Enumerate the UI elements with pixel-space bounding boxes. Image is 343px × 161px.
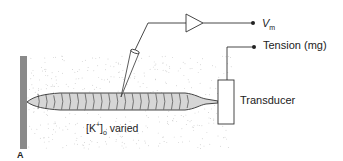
bath-dot	[53, 57, 54, 58]
bath-dot	[122, 56, 123, 57]
bath-dot	[116, 139, 117, 140]
bath-dot	[130, 77, 131, 78]
bath-dot	[197, 62, 198, 63]
bath-dot	[218, 77, 219, 78]
bath-dot	[82, 89, 83, 90]
bath-dot	[67, 129, 68, 130]
bath-dot	[40, 125, 41, 126]
bath-dot	[209, 117, 210, 118]
bath-dot	[62, 56, 63, 57]
bath-dot	[56, 83, 57, 84]
bath-dot	[77, 71, 78, 72]
tension-output-wire	[227, 47, 254, 80]
bath-dot	[55, 123, 56, 124]
bath-dot	[200, 144, 201, 145]
bath-dot	[55, 131, 56, 132]
bath-dot	[163, 70, 164, 71]
bath-dot	[122, 145, 123, 146]
bath-dot	[122, 77, 123, 78]
bath-dot	[159, 121, 160, 122]
bath-dot	[228, 56, 229, 57]
bath-dot	[85, 60, 86, 61]
bath-dot	[65, 126, 66, 127]
tension-label: Tension (mg)	[263, 39, 327, 51]
bath-dot	[133, 140, 134, 141]
bath-dot	[108, 59, 109, 60]
bath-dot	[118, 64, 119, 65]
bath-dot	[78, 78, 79, 79]
panel-letter: A	[17, 150, 24, 160]
bath-dot	[98, 77, 99, 78]
bath-dot	[28, 97, 29, 98]
bath-dot	[145, 110, 146, 111]
bath-dot	[118, 91, 119, 92]
bath-dot	[82, 61, 83, 62]
bath-dot	[172, 57, 173, 58]
bath-dot	[213, 120, 214, 121]
bath-dot	[192, 127, 193, 128]
bath-dot	[53, 92, 54, 93]
bath-dot	[66, 84, 67, 85]
bath-dot	[77, 144, 78, 145]
bath-dot	[55, 121, 56, 122]
bath-dot	[190, 68, 191, 69]
bath-dot	[147, 127, 148, 128]
bath-dot	[99, 57, 100, 58]
bath-dot	[105, 141, 106, 142]
bath-dot	[109, 82, 110, 83]
bath-dot	[51, 86, 52, 87]
bath-dot	[120, 136, 121, 137]
bath-dot	[44, 142, 45, 143]
bath-dot	[98, 114, 99, 115]
bath-dot	[45, 62, 46, 63]
bath-dot	[30, 78, 31, 79]
bath-dot	[212, 65, 213, 66]
bath-dot	[82, 78, 83, 79]
fixed-wall	[20, 56, 27, 149]
bath-dot	[174, 137, 175, 138]
bath-dot	[144, 73, 145, 74]
bath-dot	[87, 113, 88, 114]
bath-dot	[165, 56, 166, 57]
bath-dot	[89, 91, 90, 92]
bath-dot	[124, 143, 125, 144]
bath-dot	[220, 146, 221, 147]
bath-dot	[176, 121, 177, 122]
bath-dot	[84, 142, 85, 143]
bath-dot	[46, 88, 47, 89]
bath-dot	[84, 88, 85, 89]
bath-dot	[99, 146, 100, 147]
bath-dot	[55, 57, 56, 58]
bath-dot	[158, 116, 159, 117]
transducer-box	[218, 80, 234, 124]
bath-dot	[52, 139, 53, 140]
bath-dot	[166, 64, 167, 65]
bath-dot	[44, 58, 45, 59]
bath-dot	[223, 137, 224, 138]
potassium-varied-label: [K+]o varied	[86, 121, 138, 136]
bath-dot	[109, 81, 110, 82]
bath-dot	[180, 68, 181, 69]
bath-dot	[155, 65, 156, 66]
bath-dot	[139, 148, 140, 149]
bath-dot	[43, 137, 44, 138]
bath-dot	[77, 123, 78, 124]
bath-dot	[62, 130, 63, 131]
bath-dot	[193, 130, 194, 131]
bath-dot	[168, 124, 169, 125]
bath-dot	[181, 115, 182, 116]
bath-dot	[178, 142, 179, 143]
bath-dot	[210, 88, 211, 89]
bath-dot	[215, 88, 216, 89]
bath-dot	[162, 137, 163, 138]
bath-dot	[38, 88, 39, 89]
bath-dot	[52, 72, 53, 73]
bath-dot	[97, 65, 98, 66]
bath-dot	[213, 123, 214, 124]
bath-dot	[227, 72, 228, 73]
bath-dot	[144, 76, 145, 77]
bath-dot	[208, 112, 209, 113]
bath-dot	[48, 128, 49, 129]
bath-dot	[90, 140, 91, 141]
bath-dot	[200, 64, 201, 65]
